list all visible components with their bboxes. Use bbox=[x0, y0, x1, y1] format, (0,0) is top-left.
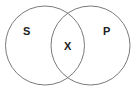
set-p-circle bbox=[51, 6, 130, 85]
set-s-label: S bbox=[23, 25, 30, 37]
set-p-label: P bbox=[103, 25, 110, 37]
venn-diagram: S X P bbox=[0, 0, 136, 92]
set-s-circle bbox=[6, 6, 85, 85]
intersection-label: X bbox=[64, 40, 72, 52]
